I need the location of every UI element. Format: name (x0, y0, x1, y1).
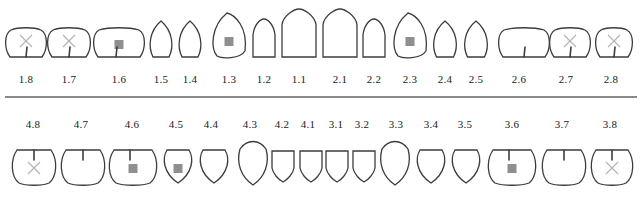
tooth-2-3[interactable] (394, 13, 426, 58)
tooth-4-2[interactable] (272, 151, 294, 182)
fissure-mark (26, 47, 27, 57)
tooth-label-1-3: 1.3 (222, 73, 236, 85)
tooth-3-3[interactable] (381, 142, 410, 186)
jaw-divider (5, 96, 637, 98)
tooth-label-2-2: 2.2 (367, 73, 381, 85)
tooth-1-3[interactable] (213, 13, 245, 58)
tooth-2-5[interactable] (465, 21, 488, 57)
tooth-2-2[interactable] (363, 19, 385, 57)
tooth-label-3-8: 3.8 (603, 118, 617, 130)
tooth-outline (452, 150, 479, 183)
tooth-4-1[interactable] (300, 151, 322, 182)
tooth-label-2-1: 2.1 (333, 73, 347, 85)
filling-icon (406, 37, 415, 46)
tooth-outline (417, 150, 444, 183)
tooth-outline (213, 13, 245, 58)
tooth-1-2[interactable] (253, 19, 275, 57)
tooth-outline (326, 151, 348, 182)
tooth-label-3-6: 3.6 (505, 118, 519, 130)
tooth-3-7[interactable] (542, 150, 585, 185)
tooth-outline (381, 142, 410, 186)
tooth-label-2-6: 2.6 (512, 73, 526, 85)
tooth-label-2-8: 2.8 (604, 73, 618, 85)
tooth-label-1-7: 1.7 (62, 73, 76, 85)
filling-icon (115, 40, 124, 49)
fissure-mark (570, 47, 571, 57)
tooth-outline (179, 21, 201, 57)
tooth-label-3-3: 3.3 (389, 118, 403, 130)
filling-icon (225, 37, 234, 46)
tooth-4-3[interactable] (239, 142, 268, 186)
tooth-label-1-6: 1.6 (112, 73, 126, 85)
tooth-4-7[interactable] (61, 150, 104, 185)
fissure-mark (69, 47, 70, 57)
tooth-label-2-3: 2.3 (403, 73, 417, 85)
tooth-outline (353, 151, 375, 182)
tooth-label-4-5: 4.5 (169, 118, 183, 130)
tooth-1-8[interactable] (6, 28, 47, 57)
tooth-outline (272, 151, 294, 182)
tooth-2-8[interactable] (596, 28, 633, 57)
tooth-label-4-2: 4.2 (275, 118, 289, 130)
tooth-1-6[interactable] (94, 28, 145, 57)
lower-jaw (12, 142, 632, 186)
tooth-1-5[interactable] (150, 21, 172, 57)
tooth-outline (282, 9, 316, 57)
tooth-label-4-6: 4.6 (125, 118, 139, 130)
tooth-2-7[interactable] (550, 28, 591, 57)
tooth-4-6[interactable] (109, 150, 156, 185)
tooth-3-1[interactable] (326, 151, 348, 182)
tooth-outline (200, 150, 227, 183)
tooth-1-7[interactable] (48, 28, 91, 57)
tooth-label-3-1: 3.1 (329, 118, 343, 130)
filling-icon (508, 164, 517, 173)
tooth-outline (253, 19, 275, 57)
tooth-label-4-8: 4.8 (26, 118, 40, 130)
tooth-label-4-3: 4.3 (243, 118, 257, 130)
tooth-2-1[interactable] (323, 9, 357, 57)
tooth-4-8[interactable] (12, 150, 55, 185)
tooth-outline (394, 13, 426, 58)
tooth-label-3-7: 3.7 (555, 118, 569, 130)
tooth-label-2-5: 2.5 (469, 73, 483, 85)
tooth-3-8[interactable] (591, 150, 632, 185)
tooth-4-4[interactable] (200, 150, 227, 183)
fissure-mark (524, 47, 525, 57)
tooth-label-2-7: 2.7 (559, 73, 573, 85)
tooth-label-4-7: 4.7 (74, 118, 88, 130)
tooth-outline (300, 151, 322, 182)
tooth-3-6[interactable] (488, 150, 535, 185)
tooth-outline (239, 142, 268, 186)
fissure-mark (116, 47, 117, 57)
tooth-2-6[interactable] (499, 28, 550, 57)
tooth-outline (150, 21, 172, 57)
tooth-label-4-1: 4.1 (301, 118, 315, 130)
tooth-label-2-4: 2.4 (438, 73, 452, 85)
tooth-label-3-2: 3.2 (355, 118, 369, 130)
tooth-outline (363, 19, 385, 57)
tooth-label-4-4: 4.4 (204, 118, 218, 130)
tooth-3-5[interactable] (452, 150, 479, 183)
tooth-label-3-4: 3.4 (424, 118, 438, 130)
tooth-4-5[interactable] (164, 150, 191, 183)
tooth-label-1-4: 1.4 (183, 73, 197, 85)
tooth-label-1-2: 1.2 (257, 73, 271, 85)
tooth-outline (465, 21, 488, 57)
filling-icon (129, 164, 138, 173)
tooth-label-1-1: 1.1 (292, 73, 306, 85)
tooth-label-1-8: 1.8 (19, 73, 33, 85)
tooth-label-1-5: 1.5 (154, 73, 168, 85)
upper-jaw (6, 9, 633, 58)
tooth-outline (434, 21, 457, 57)
tooth-1-4[interactable] (179, 21, 201, 57)
tooth-outline (323, 9, 357, 57)
tooth-2-4[interactable] (434, 21, 457, 57)
dental-chart (0, 0, 642, 198)
fissure-mark (614, 47, 615, 57)
tooth-3-4[interactable] (417, 150, 444, 183)
tooth-1-1[interactable] (282, 9, 316, 57)
filling-icon (174, 164, 183, 173)
tooth-label-3-5: 3.5 (458, 118, 472, 130)
tooth-3-2[interactable] (353, 151, 375, 182)
